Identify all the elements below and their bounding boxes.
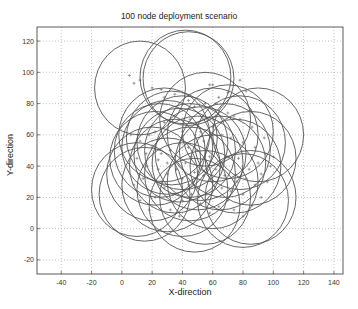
x-tick-label: 80 [239, 279, 247, 286]
node-marker [163, 187, 166, 190]
node-marker [166, 162, 169, 165]
node-marker [260, 172, 263, 175]
x-tick-label: 140 [328, 279, 340, 286]
node-marker [169, 208, 172, 211]
y-tick-label: 100 [22, 69, 34, 76]
node-marker [220, 187, 223, 190]
node-marker [135, 157, 138, 160]
node-marker [139, 199, 142, 202]
node-marker [226, 111, 229, 114]
x-tick-label: 20 [148, 279, 156, 286]
node-marker [187, 99, 190, 102]
x-tick-label: 120 [298, 279, 310, 286]
y-tick-label: 20 [26, 194, 34, 201]
node-marker [263, 136, 266, 139]
x-tick-label: -40 [56, 279, 66, 286]
coverage-circles [92, 30, 304, 252]
plot-area: -40-20020406080100120140-200204060801001… [0, 0, 358, 309]
node-marker [160, 152, 163, 155]
node-marker [238, 79, 241, 82]
node-marker [208, 212, 211, 215]
node-marker [217, 205, 220, 208]
node-marker [208, 155, 211, 158]
node-marker [189, 118, 192, 121]
node-marker [269, 165, 272, 168]
node-marker [208, 83, 211, 86]
node-marker [148, 208, 151, 211]
node-marker [248, 168, 251, 171]
y-tick-label: 40 [26, 163, 34, 170]
node-marker [257, 162, 260, 165]
x-tick-label: 40 [179, 279, 187, 286]
x-tick-label: 100 [267, 279, 279, 286]
node-marker [217, 96, 220, 99]
node-marker [128, 74, 131, 77]
node-marker [187, 146, 190, 149]
node-marker [139, 79, 142, 82]
node-marker [173, 93, 176, 96]
node-marker [232, 208, 235, 211]
x-tick-label: -20 [86, 279, 96, 286]
y-tick-label: 60 [26, 131, 34, 138]
x-tick-label: 60 [209, 279, 217, 286]
y-tick-label: 80 [26, 100, 34, 107]
node-marker [132, 82, 135, 85]
y-tick-label: 0 [30, 225, 34, 232]
y-tick-label: 120 [22, 38, 34, 45]
node-marker [193, 105, 196, 108]
node-marker [211, 83, 214, 86]
node-marker [260, 196, 263, 199]
node-marker [142, 177, 145, 180]
node-marker [154, 196, 157, 199]
node-marker [139, 140, 142, 143]
node-marker [237, 157, 240, 160]
y-tick-label: -20 [24, 256, 34, 263]
axes-frame [37, 27, 343, 274]
x-tick-label: 0 [120, 279, 124, 286]
node-marker [157, 158, 160, 161]
